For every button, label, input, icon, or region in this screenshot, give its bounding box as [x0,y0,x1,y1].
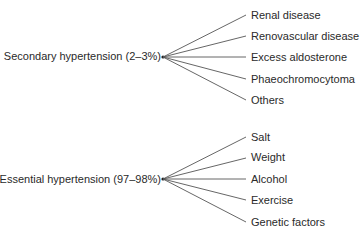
group-label-essential: Essential hypertension (97–98%) [0,173,161,186]
connector-line [163,15,246,57]
connector-line [163,179,246,222]
connector-line [163,57,246,100]
connector-line [163,179,246,200]
cause-item: Alcohol [251,173,287,186]
cause-item: Others [251,94,284,107]
cause-item: Phaeochromocytoma [251,73,355,86]
cause-item: Excess aldosterone [251,51,347,64]
cause-item: Exercise [251,194,293,207]
connector-line [163,36,246,57]
cause-item: Salt [251,131,270,144]
group-label-secondary: Secondary hypertension (2–3%) [4,50,161,63]
connector-line [163,158,246,179]
connector-line [163,57,246,79]
cause-item: Renal disease [251,9,321,22]
cause-item: Weight [251,151,285,164]
connector-line [163,137,246,179]
cause-item: Renovascular disease [251,30,359,43]
cause-item: Genetic factors [251,216,325,229]
